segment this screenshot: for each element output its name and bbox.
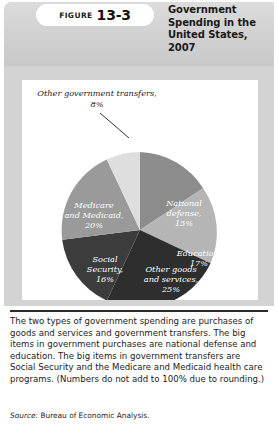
figure-title: Government Spending in the United States… (168, 4, 272, 54)
figure-number-tab: FIGURE 13-3 (36, 4, 154, 26)
pie-chart: National defense, 15% Education, 17% Oth… (22, 80, 258, 300)
caption-divider (10, 310, 268, 312)
caption-text: The two types of government spending are… (10, 316, 268, 386)
pie-label-other-government-transfers: Other government transfers, 8% (22, 88, 172, 109)
figure-panel: FIGURE 13-3 Government Spending in the U… (0, 0, 278, 434)
pie-label-other-goods-and-services: Other goods and services, 25% (128, 264, 214, 294)
source-line: Source: Bureau of Economic Analysis. (10, 411, 268, 420)
chart-panel: National defense, 15% Education, 17% Oth… (22, 80, 258, 300)
source-text: Bureau of Economic Analysis. (40, 411, 149, 420)
figure-number-label: 13-3 (97, 7, 131, 23)
source-prefix: Source: (10, 411, 38, 420)
figure-word-label: FIGURE (59, 11, 92, 20)
callout-leader-line (100, 113, 129, 138)
pie-label-social-security: Social Security, 16% (70, 254, 140, 284)
pie-label-medicare-and-medicaid: Medicare and Medicaid, 20% (48, 200, 140, 230)
pie-label-national-defense: National defense, 15% (150, 198, 218, 228)
